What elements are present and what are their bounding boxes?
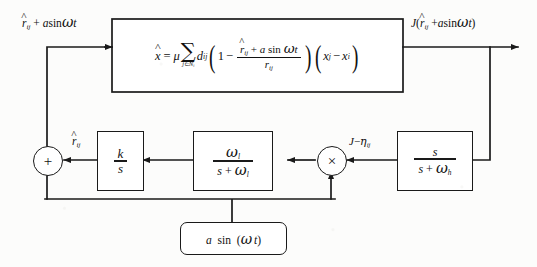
demod-input-label: J−ηij <box>349 136 371 148</box>
multiply-icon: × <box>328 154 336 169</box>
eq-open-paren-2: ( <box>315 41 321 72</box>
sigma-icon: ∑ <box>181 43 196 61</box>
eq-frac-denominator: rij <box>262 58 276 71</box>
lowpass-denominator: s + ωl <box>213 162 252 179</box>
eq-minus-2: − <box>333 49 340 64</box>
integrator-output-label: rij <box>72 136 80 149</box>
integrator-denominator: s <box>114 162 127 176</box>
main-equation: x = μ ∑ j∈Ni dij ( 1 − rij + a sin ωt ri… <box>120 32 395 80</box>
lowpass-transfer-function: ωl s + ωl <box>213 144 252 178</box>
output-signal-label: J(rij +asinωt) <box>411 15 475 31</box>
integrator-transfer-function: k s <box>114 147 128 176</box>
highpass-denominator: s + ωh <box>414 160 455 177</box>
eq-equals: = <box>163 49 170 64</box>
input-signal-label: rij + asinωt <box>22 15 77 31</box>
integrator-numerator: k <box>114 147 128 161</box>
multiplier-node[interactable]: × <box>317 146 347 176</box>
dither-oscillator-block[interactable]: a sin (ωt) <box>180 222 287 255</box>
highpass-numerator: s <box>429 146 442 159</box>
eq-d-sub: ij <box>203 52 207 61</box>
eq-one: 1 <box>218 49 224 64</box>
eq-frac-numerator: rij + a sin ωt <box>237 42 301 57</box>
summing-junction[interactable]: + <box>33 146 63 176</box>
eq-close-paren: ) <box>305 41 311 72</box>
eq-minus: − <box>226 49 233 64</box>
lowpass-numerator: ωl <box>222 144 244 161</box>
sum-subscript: j∈Ni <box>182 61 194 69</box>
plus-icon: + <box>44 154 52 169</box>
eq-fraction: rij + a sin ωt rij <box>237 42 301 71</box>
eq-open-paren: ( <box>209 41 215 72</box>
dither-expression: a sin (ωt) <box>206 231 261 247</box>
eq-mu: μ <box>174 49 180 64</box>
highpass-transfer-function: s s + ωh <box>414 146 455 177</box>
eq-summation: ∑ j∈Ni <box>181 43 196 69</box>
integrator-block[interactable]: k s <box>97 131 144 191</box>
wire-dither-bus <box>45 199 335 222</box>
eq-close-paren-2: ) <box>352 41 358 72</box>
eq-xdot: x <box>155 49 161 64</box>
lowpass-filter-block[interactable]: ωl s + ωl <box>193 131 273 191</box>
highpass-filter-block[interactable]: s s + ωh <box>397 131 473 191</box>
